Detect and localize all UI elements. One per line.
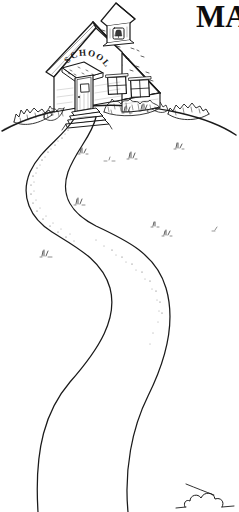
- door: [75, 75, 93, 113]
- window-left: [106, 74, 128, 95]
- schoolhouse-illustration: SCHOOL: [0, 0, 239, 512]
- window-right: [129, 77, 151, 98]
- door-window: [81, 84, 89, 92]
- bell-icon: [113, 28, 124, 39]
- doorknob: [78, 96, 80, 98]
- headline-text: MA: [196, 1, 239, 33]
- illustration-canvas: SCHOOL: [0, 0, 239, 512]
